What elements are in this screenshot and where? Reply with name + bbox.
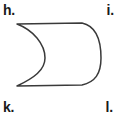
option-label-i[interactable]: i.	[107, 3, 114, 17]
option-label-l[interactable]: l.	[106, 100, 113, 114]
shape-choice-diagram: h. i. k. l.	[0, 0, 118, 117]
option-label-h[interactable]: h.	[3, 3, 15, 17]
crescent-shape-figure	[0, 0, 118, 117]
crescent-outline-path	[17, 23, 101, 86]
option-label-k[interactable]: k.	[3, 100, 14, 114]
